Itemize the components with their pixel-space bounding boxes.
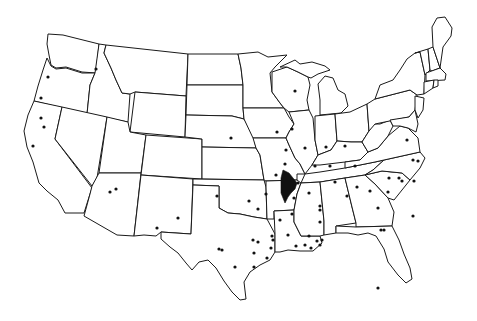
location-dot xyxy=(39,96,42,99)
state-new-jersey xyxy=(415,96,424,118)
location-dot xyxy=(416,159,419,162)
state-south-dakota xyxy=(186,85,244,119)
location-dot xyxy=(215,194,218,197)
location-dot xyxy=(256,240,259,243)
state-rhode-island xyxy=(433,80,438,88)
location-dot xyxy=(387,176,390,179)
location-dot xyxy=(271,238,274,241)
location-dot xyxy=(290,127,293,130)
location-dot xyxy=(94,67,97,70)
location-dot xyxy=(368,189,371,192)
location-dot xyxy=(256,207,259,210)
location-dot xyxy=(318,220,321,223)
location-dot xyxy=(296,181,299,184)
location-dot xyxy=(294,244,297,247)
location-dot xyxy=(343,144,346,147)
location-dot xyxy=(220,248,223,251)
location-dot xyxy=(42,125,45,128)
state-wyoming xyxy=(130,92,186,137)
location-dot xyxy=(307,234,310,237)
location-dot xyxy=(270,234,273,237)
location-dot xyxy=(313,164,316,167)
location-dot xyxy=(345,194,348,197)
location-dot xyxy=(275,130,278,133)
state-connecticut xyxy=(424,80,434,94)
state-michigan-lower xyxy=(318,76,348,115)
location-dot xyxy=(328,164,331,167)
location-dot xyxy=(376,286,379,289)
location-dot xyxy=(283,162,286,165)
location-dot xyxy=(397,176,400,179)
location-dot xyxy=(108,190,111,193)
location-dot xyxy=(265,256,268,259)
location-dot xyxy=(278,218,281,221)
location-dot xyxy=(353,164,356,167)
location-dot xyxy=(303,146,306,149)
location-dot xyxy=(379,228,382,231)
location-dot xyxy=(284,148,287,151)
state-north-dakota xyxy=(187,54,243,85)
state-new-mexico xyxy=(134,175,193,236)
location-dot xyxy=(318,204,321,207)
location-dot xyxy=(269,246,272,249)
location-dot xyxy=(315,239,318,242)
location-dot xyxy=(286,233,289,236)
location-dot xyxy=(386,190,389,193)
location-dot xyxy=(176,216,179,219)
location-dot xyxy=(355,185,358,188)
location-dot xyxy=(411,214,414,217)
location-dot xyxy=(400,179,403,182)
location-dot xyxy=(252,265,255,268)
location-dot xyxy=(411,158,414,161)
location-dot xyxy=(114,187,117,190)
location-dot xyxy=(303,243,306,246)
location-dot xyxy=(46,75,49,78)
location-dot xyxy=(320,238,323,241)
location-dot xyxy=(376,206,379,209)
location-dot xyxy=(293,89,296,92)
location-dot xyxy=(155,226,158,229)
location-dot xyxy=(264,192,267,195)
location-dot xyxy=(233,265,236,268)
us-states-map xyxy=(0,0,477,321)
location-dot xyxy=(405,138,408,141)
state-boundaries xyxy=(24,17,452,300)
location-dot xyxy=(333,180,336,183)
location-dot xyxy=(290,212,293,215)
location-dot xyxy=(274,173,277,176)
state-washington xyxy=(47,34,99,73)
state-new-york xyxy=(375,52,425,99)
state-iowa xyxy=(243,108,294,138)
location-dot xyxy=(251,238,254,241)
location-dot xyxy=(382,228,385,231)
location-dot xyxy=(412,179,415,182)
state-colorado xyxy=(141,135,202,179)
state-kansas xyxy=(202,147,264,180)
location-dot xyxy=(217,247,220,250)
location-dot xyxy=(252,251,255,254)
location-dot xyxy=(292,196,295,199)
state-florida xyxy=(336,226,412,283)
location-dot xyxy=(318,208,321,211)
location-dot xyxy=(318,243,321,246)
location-dot xyxy=(229,136,232,139)
location-dot xyxy=(247,199,250,202)
location-dot xyxy=(324,145,327,148)
location-dot xyxy=(39,116,42,119)
location-dot xyxy=(309,246,312,249)
location-dot xyxy=(31,144,34,147)
location-dot xyxy=(307,191,310,194)
